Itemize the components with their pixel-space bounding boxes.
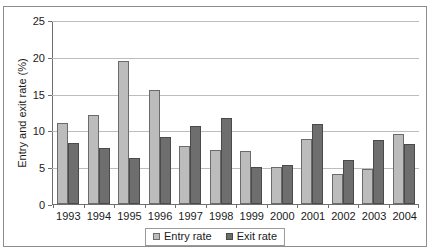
legend-label-exit: Exit rate: [237, 230, 277, 243]
bar-entry-1997[interactable]: [179, 146, 190, 204]
legend-item-entry-rate[interactable]: Entry rate: [153, 230, 212, 243]
x-tick-label-1998: 1998: [206, 209, 237, 223]
x-tick-label-2004: 2004: [389, 209, 420, 223]
bar-entry-2003[interactable]: [362, 169, 373, 204]
y-tick-label-15: 15: [33, 89, 45, 100]
plot-area: 0510152025: [52, 21, 419, 205]
bar-entry-2004[interactable]: [393, 134, 404, 204]
y-tick-20: [48, 58, 52, 59]
x-tick-label-1993: 1993: [53, 209, 84, 223]
bar-group-2004: [389, 21, 420, 204]
bar-exit-2002[interactable]: [343, 160, 354, 204]
bar-entry-1999[interactable]: [240, 151, 251, 204]
bar-group-1996: [145, 21, 176, 204]
x-tick-1996: [145, 204, 146, 208]
bar-group-1997: [175, 21, 206, 204]
bar-exit-1999[interactable]: [251, 167, 262, 204]
bar-entry-2002[interactable]: [332, 174, 343, 204]
x-tick-2004: [389, 204, 390, 208]
bar-entry-1998[interactable]: [210, 150, 221, 204]
bar-exit-1997[interactable]: [190, 126, 201, 204]
bar-group-2001: [297, 21, 328, 204]
y-tick-label-20: 20: [33, 52, 45, 63]
y-tick-label-0: 0: [39, 200, 45, 211]
x-tick-2002: [328, 204, 329, 208]
x-tick-1999: [236, 204, 237, 208]
bar-entry-1995[interactable]: [118, 61, 129, 204]
legend-item-exit-rate[interactable]: Exit rate: [226, 230, 277, 243]
bar-entry-1996[interactable]: [149, 90, 160, 204]
bar-exit-2001[interactable]: [312, 124, 323, 204]
x-tick-label-2002: 2002: [328, 209, 359, 223]
chart-legend: Entry rate Exit rate: [145, 228, 285, 246]
x-tick-2003: [358, 204, 359, 208]
x-tick-1994: [84, 204, 85, 208]
bar-exit-2003[interactable]: [373, 140, 384, 204]
y-tick-label-5: 5: [39, 163, 45, 174]
bar-group-1993: [53, 21, 84, 204]
bar-exit-1998[interactable]: [221, 118, 232, 204]
x-tick-label-1995: 1995: [114, 209, 145, 223]
bar-group-2003: [358, 21, 389, 204]
bar-group-1994: [84, 21, 115, 204]
x-tick-label-1994: 1994: [84, 209, 115, 223]
y-axis-title: Entry and exit rate (%): [15, 21, 29, 205]
legend-label-entry: Entry rate: [164, 230, 212, 243]
x-tick-1993: [53, 204, 54, 208]
legend-swatch-entry-icon: [153, 233, 160, 240]
y-tick-5: [48, 168, 52, 169]
x-tick-1998: [206, 204, 207, 208]
bar-entry-2000[interactable]: [271, 167, 282, 204]
x-tick-label-1996: 1996: [145, 209, 176, 223]
x-tick-labels: 1993199419951996199719981999200020012002…: [53, 209, 420, 223]
y-tick-15: [48, 95, 52, 96]
y-axis-title-text: Entry and exit rate (%): [16, 58, 28, 167]
x-tick-1995: [114, 204, 115, 208]
x-tick-label-1997: 1997: [175, 209, 206, 223]
legend-swatch-exit-icon: [226, 233, 233, 240]
bar-entry-1993[interactable]: [57, 123, 68, 204]
x-tick-label-2003: 2003: [359, 209, 390, 223]
x-tick-label-2001: 2001: [298, 209, 329, 223]
bar-entry-1994[interactable]: [88, 115, 99, 204]
chart-frame: Entry and exit rate (%) 0510152025 19931…: [3, 6, 427, 247]
y-tick-0: [48, 205, 52, 206]
bar-group-1998: [206, 21, 237, 204]
bar-exit-1996[interactable]: [160, 137, 171, 204]
y-tick-25: [48, 21, 52, 22]
bar-exit-1993[interactable]: [68, 143, 79, 204]
bar-series-container: [53, 21, 419, 204]
x-tick-label-1999: 1999: [236, 209, 267, 223]
x-tick-end: [418, 204, 419, 208]
bar-group-2000: [267, 21, 298, 204]
bar-exit-2000[interactable]: [282, 165, 293, 204]
x-tick-2000: [267, 204, 268, 208]
x-tick-1997: [175, 204, 176, 208]
y-tick-10: [48, 131, 52, 132]
bar-exit-1994[interactable]: [99, 148, 110, 204]
y-tick-label-25: 25: [33, 16, 45, 27]
bar-entry-2001[interactable]: [301, 139, 312, 204]
bar-group-1999: [236, 21, 267, 204]
x-tick-label-2000: 2000: [267, 209, 298, 223]
y-tick-label-10: 10: [33, 126, 45, 137]
bar-group-2002: [328, 21, 359, 204]
x-tick-2001: [297, 204, 298, 208]
bar-group-1995: [114, 21, 145, 204]
bar-exit-1995[interactable]: [129, 158, 140, 204]
bar-exit-2004[interactable]: [404, 144, 415, 204]
